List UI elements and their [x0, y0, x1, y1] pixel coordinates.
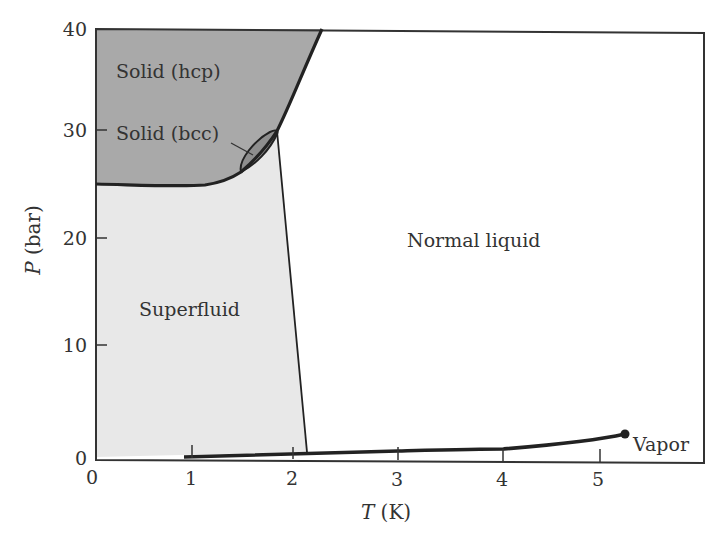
y-axis-unit: (bar) [21, 205, 45, 261]
x-tick-label-5: 5 [592, 468, 604, 490]
helium-phase-diagram: 40 30 20 10 0 0 1 2 3 4 5 T (K) P (bar) … [0, 0, 726, 548]
y-tick-label-20: 20 [63, 227, 87, 249]
x-tick-label-0: 0 [86, 466, 98, 488]
y-tick-label-40: 40 [63, 18, 87, 40]
x-tick-labels: 0 1 2 3 4 5 [86, 466, 604, 490]
y-tick-labels: 40 30 20 10 0 [63, 18, 87, 469]
x-axis-label: T (K) [361, 500, 411, 524]
x-tick-label-3: 3 [391, 468, 403, 490]
critical-point-dot [621, 430, 630, 439]
y-axis-label: P (bar) [21, 205, 45, 276]
y-tick-label-30: 30 [63, 119, 87, 141]
y-tick-label-10: 10 [63, 334, 87, 356]
label-solid-hcp: Solid (hcp) [116, 60, 221, 82]
x-tick-label-4: 4 [496, 468, 508, 490]
x-tick-label-1: 1 [185, 467, 197, 489]
x-tick-label-2: 2 [286, 467, 298, 489]
label-normal-liquid: Normal liquid [407, 229, 540, 251]
label-superfluid: Superfluid [139, 298, 240, 320]
x-axis-unit: (K) [374, 500, 411, 524]
y-axis-var: P [21, 261, 45, 276]
label-vapor: Vapor [632, 433, 690, 455]
label-solid-bcc: Solid (bcc) [116, 122, 219, 144]
